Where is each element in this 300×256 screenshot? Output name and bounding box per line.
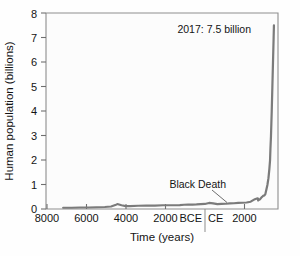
population-chart-figure: 0 1 2 3 4 5 6 7 8 8000 6000 4000 2000 BC… [0, 0, 300, 256]
y-tick-label-3: 3 [31, 130, 37, 142]
plot-area-background [46, 13, 278, 209]
black-death-annotation-label: Black Death [169, 178, 226, 190]
x-tick-label-6000: 6000 [74, 212, 98, 224]
x-tick-label-2000: 2000 [153, 212, 177, 224]
y-axis-title: Human population (billions) [3, 41, 15, 181]
x-tick-label-4000: 4000 [114, 212, 138, 224]
x-tick-label-bce: BCE [179, 212, 202, 224]
y-axis-ticks [41, 13, 46, 209]
chart-canvas: 0 1 2 3 4 5 6 7 8 8000 6000 4000 2000 BC… [0, 0, 300, 256]
y-tick-label-1: 1 [31, 179, 37, 191]
x-tick-label-ce: CE [208, 212, 223, 224]
y-axis-tick-labels: 0 1 2 3 4 5 6 7 8 [31, 8, 37, 216]
y-tick-label-2: 2 [31, 154, 37, 166]
y-tick-label-7: 7 [31, 32, 37, 44]
y-tick-label-6: 6 [31, 56, 37, 68]
x-tick-label-2000ce: 2000 [232, 212, 256, 224]
x-axis-tick-labels: 8000 6000 4000 2000 BCE CE 2000 [35, 212, 257, 224]
x-tick-label-8000: 8000 [35, 212, 59, 224]
x-axis-title: Time (years) [130, 231, 194, 243]
y-tick-label-5: 5 [31, 81, 37, 93]
peak-annotation-label: 2017: 7.5 billion [177, 23, 251, 35]
y-tick-label-8: 8 [31, 8, 37, 20]
y-tick-label-4: 4 [31, 105, 37, 117]
